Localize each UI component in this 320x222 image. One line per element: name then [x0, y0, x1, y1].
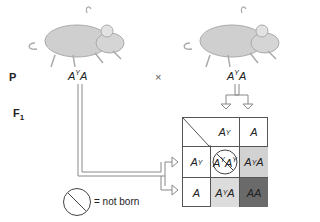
col-header-1: AY — [210, 118, 239, 146]
punnett-square: AY A AY A AYAY AYA AYA AA — [182, 117, 268, 207]
not-born-legend-icon — [62, 187, 92, 217]
row-header-2: A — [183, 177, 210, 207]
cell-ay-ay: AYAY — [210, 146, 239, 177]
legend-label: = not born — [94, 196, 139, 207]
cell-ay-a-bottom: AYA — [210, 177, 239, 207]
corner-diagonal — [183, 118, 211, 146]
col-header-2: A — [239, 118, 268, 146]
row-header-1: AY — [183, 146, 210, 177]
cell-a-a: AA — [239, 177, 268, 207]
cell-ay-a-top: AYA — [239, 146, 268, 177]
